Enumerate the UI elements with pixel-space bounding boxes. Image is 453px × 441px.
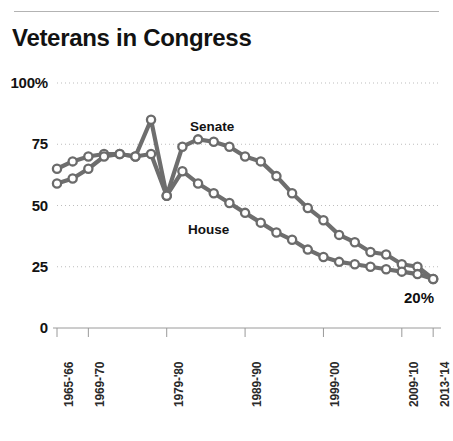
series-label-house: House xyxy=(188,222,229,237)
x-axis-tick-label-1969: 1969-'70 xyxy=(93,362,107,407)
data-point-house-14 xyxy=(272,228,280,236)
data-point-house-20 xyxy=(366,263,374,271)
data-point-house-4 xyxy=(116,150,124,158)
series-label-senate: Senate xyxy=(190,119,234,134)
data-point-senate-15 xyxy=(288,189,296,197)
data-point-senate-11 xyxy=(225,143,233,151)
x-axis-tick-label-1999: 1999-'00 xyxy=(328,362,342,407)
data-point-house-12 xyxy=(241,209,249,217)
data-point-house-19 xyxy=(351,260,359,268)
data-point-senate-21 xyxy=(382,250,390,258)
data-point-house-21 xyxy=(382,265,390,273)
data-point-senate-0 xyxy=(53,165,61,173)
data-point-house-6 xyxy=(147,150,155,158)
y-axis-tick-label-25: 25 xyxy=(0,258,48,275)
chart-page: Veterans in Congress 100%7550250 1965-'6… xyxy=(0,0,453,441)
data-point-house-7 xyxy=(163,192,171,200)
data-point-house-17 xyxy=(319,253,327,261)
data-point-senate-6 xyxy=(147,116,155,124)
data-point-house-10 xyxy=(210,189,218,197)
data-point-senate-12 xyxy=(241,152,249,160)
data-point-senate-1 xyxy=(69,157,77,165)
data-point-house-5 xyxy=(131,152,139,160)
data-point-senate-17 xyxy=(319,216,327,224)
y-axis-tick-label-100: 100% xyxy=(0,74,48,91)
data-point-senate-9 xyxy=(194,135,202,143)
data-point-house-3 xyxy=(100,152,108,160)
x-axis-tick-label-2013: 2013-'14 xyxy=(438,362,452,407)
series-line-senate xyxy=(57,120,433,279)
gridlines-group xyxy=(57,83,441,267)
data-point-house-2 xyxy=(84,165,92,173)
data-point-house-23 xyxy=(413,270,421,278)
data-point-house-8 xyxy=(178,167,186,175)
y-axis-tick-label-50: 50 xyxy=(0,197,48,214)
data-point-house-1 xyxy=(69,174,77,182)
data-point-senate-19 xyxy=(351,238,359,246)
data-point-senate-13 xyxy=(257,157,265,165)
data-point-senate-20 xyxy=(366,248,374,256)
chart-plot-area: 100%7550250 1965-'661969-'701979-'801989… xyxy=(0,0,453,441)
data-point-senate-2 xyxy=(84,152,92,160)
x-axis-group xyxy=(53,328,441,337)
data-point-house-11 xyxy=(225,199,233,207)
data-point-house-24 xyxy=(429,275,437,283)
x-axis-tick-label-1989: 1989-'90 xyxy=(250,362,264,407)
x-axis-tick-label-1979: 1979-'80 xyxy=(172,362,186,407)
data-point-senate-16 xyxy=(304,204,312,212)
end-value-annotation: 20% xyxy=(404,289,434,306)
y-axis-tick-label-0: 0 xyxy=(0,319,48,336)
data-point-house-22 xyxy=(398,268,406,276)
data-point-house-13 xyxy=(257,219,265,227)
series-lines-group xyxy=(57,120,433,279)
data-point-senate-8 xyxy=(178,143,186,151)
data-point-senate-10 xyxy=(210,138,218,146)
data-point-house-9 xyxy=(194,179,202,187)
data-point-house-0 xyxy=(53,179,61,187)
x-axis-tick-label-2009: 2009-'10 xyxy=(407,362,421,407)
data-point-house-15 xyxy=(288,236,296,244)
data-point-senate-18 xyxy=(335,231,343,239)
x-axis-tick-label-1965: 1965-'66 xyxy=(62,362,76,407)
data-point-house-16 xyxy=(304,246,312,254)
series-markers-group xyxy=(53,116,437,283)
data-point-senate-14 xyxy=(272,172,280,180)
y-axis-tick-label-75: 75 xyxy=(0,135,48,152)
data-point-house-18 xyxy=(335,258,343,266)
